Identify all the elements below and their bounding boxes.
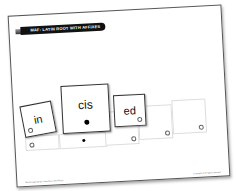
prefix-card[interactable]: in bbox=[19, 101, 57, 139]
open-marker-icon bbox=[29, 142, 34, 147]
footer-right: Copyright © All rights reserved. bbox=[193, 171, 221, 174]
filled-marker-icon bbox=[84, 120, 89, 125]
open-marker-icon bbox=[199, 125, 204, 130]
slot-2[interactable] bbox=[59, 132, 108, 149]
open-marker-icon bbox=[131, 136, 136, 141]
suffix-card[interactable]: ed bbox=[113, 94, 147, 128]
open-marker-icon bbox=[137, 117, 142, 122]
footer-left: Morphology Cards • Latin Root with Affix… bbox=[25, 179, 63, 183]
root-text: cis bbox=[78, 97, 93, 112]
open-marker-icon bbox=[28, 127, 34, 133]
worksheet-page: MAF: LATIN ROOT WITH AFFIXES in cis ed M… bbox=[8, 5, 231, 188]
slot-5[interactable] bbox=[171, 98, 207, 134]
page-title: MAF: LATIN ROOT WITH AFFIXES bbox=[20, 23, 105, 35]
root-card[interactable]: cis bbox=[60, 84, 110, 134]
open-marker-icon bbox=[165, 130, 170, 135]
prefix-text: in bbox=[33, 113, 44, 126]
suffix-text: ed bbox=[123, 104, 136, 117]
filled-marker-icon bbox=[82, 139, 85, 142]
